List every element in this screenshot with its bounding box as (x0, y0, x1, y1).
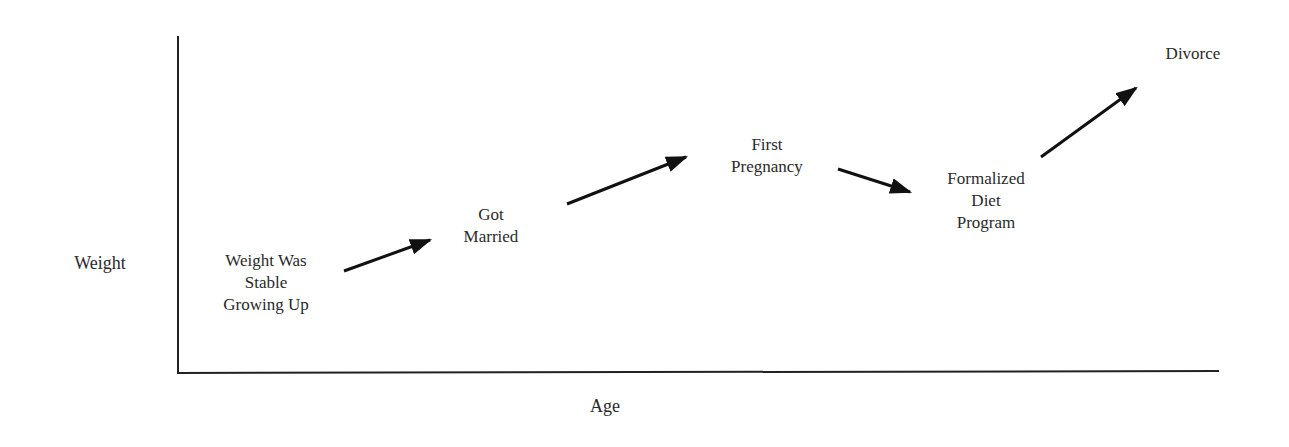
y-axis-label: Weight (74, 252, 126, 274)
event-line: Formalized (947, 168, 1024, 190)
arrow-stable-to-married (344, 240, 430, 271)
diagram-canvas (0, 0, 1289, 447)
y-axis-label-text: Weight (74, 252, 126, 274)
x-axis-label: Age (590, 395, 620, 417)
event-line: Program (947, 212, 1024, 234)
event-line: Divorce (1166, 43, 1221, 65)
arrow-diet-to-divorce (1041, 88, 1136, 157)
event-line: Diet (947, 190, 1024, 212)
event-line: Stable (223, 272, 308, 294)
event-line: Growing Up (223, 294, 308, 316)
event-line: Married (464, 226, 519, 248)
event-stable-growing-up: Weight Was Stable Growing Up (223, 250, 308, 316)
arrow-pregnancy-to-diet (838, 169, 910, 192)
arrow-married-to-pregnancy (567, 157, 686, 204)
event-got-married: Got Married (464, 204, 519, 248)
event-line: Weight Was (223, 250, 308, 272)
event-line: Got (464, 204, 519, 226)
event-line: Pregnancy (731, 156, 803, 178)
event-first-pregnancy: First Pregnancy (731, 134, 803, 178)
event-line: First (731, 134, 803, 156)
x-axis-label-text: Age (590, 395, 620, 417)
event-formalized-diet-program: Formalized Diet Program (947, 168, 1024, 234)
x-axis (177, 371, 1219, 373)
event-divorce: Divorce (1166, 43, 1221, 65)
